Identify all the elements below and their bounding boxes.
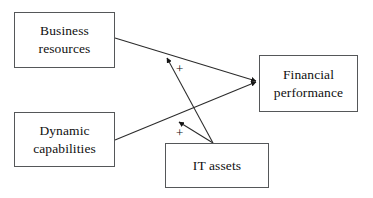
node-business-resources: Business resources [14, 12, 115, 68]
edge-it-assets-to-business-resources [167, 58, 213, 143]
edge-business-resources-to-financial-performance [115, 38, 256, 81]
edge-it-assets-to-dynamic-capabilities [179, 122, 213, 143]
node-it-assets: IT assets [165, 143, 269, 188]
edge-sign-plus-it-assets-to-business-resources: + [176, 62, 183, 75]
diagram-canvas: Business resources Dynamic capabilities … [0, 0, 373, 198]
node-it-assets-label: IT assets [189, 157, 245, 175]
node-financial-performance: Financial performance [259, 55, 358, 112]
node-dynamic-capabilities-label: Dynamic capabilities [29, 122, 100, 158]
edge-dynamic-capabilities-to-financial-performance [115, 82, 256, 140]
node-dynamic-capabilities: Dynamic capabilities [14, 112, 115, 167]
edge-sign-plus-it-assets-to-dynamic-capabilities: + [176, 126, 183, 139]
node-business-resources-label: Business resources [35, 22, 95, 58]
node-financial-performance-label: Financial performance [270, 66, 347, 102]
